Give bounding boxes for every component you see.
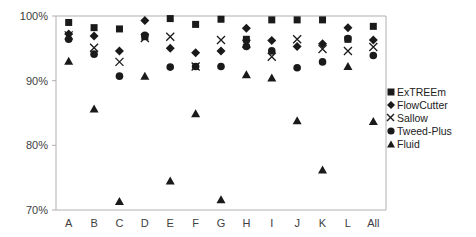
series-fluid: Fluid A: 93%Fluid B: 85.6%Fluid C: 71.3%…	[64, 57, 378, 205]
x-marker: Sallow C: 92.9%	[115, 58, 123, 66]
x-tick-label: I	[270, 217, 273, 229]
triangle-marker: Fluid L: 92.2%	[343, 62, 352, 70]
x-tick-label: All	[367, 217, 379, 229]
triangle-marker: Fluid D: 90.7%	[140, 72, 149, 80]
circle-marker: Tweed-Plus D: 97%	[141, 32, 149, 40]
y-axis-ticks: 70%80%90%100%	[20, 10, 56, 216]
x-tick-label: J	[294, 217, 300, 229]
diamond-marker: FlowCutter B: 96.9%	[90, 32, 99, 41]
triangle-marker: Fluid F: 84.9%	[191, 109, 200, 117]
square-marker: ExTREEm F: 98.7%	[192, 21, 199, 28]
circle-marker: Tweed-Plus L: 96.5%	[344, 35, 352, 43]
series-tweed-plus: Tweed-Plus A: 96.4%Tweed-Plus B: 94.1%Tw…	[65, 32, 377, 80]
legend-label: Sallow	[397, 112, 428, 124]
triangle-marker: Fluid All: 83.7%	[369, 117, 378, 125]
triangle-marker: Fluid I: 90.4%	[267, 74, 276, 82]
circle-marker: Tweed-Plus F: 92.2%	[192, 63, 200, 71]
square-marker: ExTREEm A: 99%	[65, 19, 72, 26]
diamond-marker: FlowCutter C: 94.6%	[115, 46, 124, 55]
legend-label: Fluid	[397, 138, 420, 150]
axes	[56, 16, 386, 210]
circle-marker: Tweed-Plus H: 95.3%	[243, 43, 251, 51]
square-marker: ExTREEm B: 98.2%	[91, 24, 98, 31]
y-tick-label: 70%	[26, 204, 48, 216]
legend: ExTREEm FlowCutter Sallow Tweed-Plus Flu…	[386, 85, 476, 150]
diamond-marker: FlowCutter D: 99.3%	[140, 16, 149, 25]
legend-item-sallow: Sallow	[386, 111, 476, 124]
diamond-marker: FlowCutter I: 96.2%	[267, 36, 276, 45]
x-tick-label: K	[319, 217, 327, 229]
triangle-marker: Fluid B: 85.6%	[90, 105, 99, 113]
triangle-marker: Fluid C: 71.3%	[115, 197, 124, 205]
square-icon	[386, 87, 395, 97]
circle-marker: Tweed-Plus J: 92%	[293, 64, 301, 72]
y-tick-label: 80%	[26, 139, 48, 151]
x-marker: Sallow G: 96.3%	[217, 36, 225, 44]
diamond-marker: FlowCutter K: 95.7%	[318, 39, 327, 48]
data-points: ExTREEm A: 99%ExTREEm B: 98.2%ExTREEm C:…	[64, 15, 378, 205]
x-tick-label: F	[192, 217, 199, 229]
circle-marker: Tweed-Plus K: 92.9%	[319, 58, 327, 66]
circle-marker: Tweed-Plus I: 94.6%	[268, 47, 276, 55]
y-tick-label: 100%	[20, 10, 48, 22]
x-tick-label: C	[115, 217, 123, 229]
triangle-marker: Fluid K: 76.2%	[318, 165, 327, 173]
square-marker: ExTREEm I: 99.4%	[268, 16, 275, 23]
square-marker: ExTREEm K: 99.4%	[319, 16, 326, 23]
circle-marker: Tweed-Plus All: 93.9%	[370, 52, 378, 60]
x-tick-label: A	[65, 217, 73, 229]
x-tick-label: H	[242, 217, 250, 229]
x-tick-label: B	[90, 217, 97, 229]
y-tick-label: 90%	[26, 75, 48, 87]
scatter-chart: 70%80%90%100% ABCDEFGHIJKLAll ExTREEm A:…	[0, 0, 476, 237]
circle-marker: Tweed-Plus C: 90.7%	[116, 72, 124, 80]
series-extreem: ExTREEm A: 99%ExTREEm B: 98.2%ExTREEm C:…	[65, 15, 377, 43]
x-icon	[386, 113, 395, 123]
legend-label: Tweed-Plus	[397, 125, 452, 137]
circle-marker: Tweed-Plus G: 92.2%	[217, 63, 225, 71]
triangle-marker: Fluid G: 71.6%	[217, 195, 226, 203]
triangle-marker: Fluid J: 83.8%	[293, 116, 302, 124]
triangle-marker: Fluid E: 74.5%	[166, 176, 175, 184]
legend-item-extreem: ExTREEm	[386, 85, 476, 98]
square-marker: ExTREEm All: 98.4%	[370, 23, 377, 30]
x-marker: Sallow E: 96.8%	[166, 33, 174, 41]
diamond-marker: FlowCutter E: 95%	[166, 44, 175, 53]
legend-item-tweed-plus: Tweed-Plus	[386, 124, 476, 137]
circle-marker: Tweed-Plus B: 94.1%	[90, 50, 98, 58]
triangle-marker: Fluid A: 93%	[64, 57, 73, 65]
x-tick-label: L	[345, 217, 351, 229]
square-marker: ExTREEm E: 99.6%	[167, 15, 174, 22]
x-axis-ticks: ABCDEFGHIJKLAll	[65, 217, 379, 229]
x-marker: Sallow L: 94.6%	[344, 47, 352, 55]
circle-marker: Tweed-Plus E: 92.1%	[166, 63, 174, 71]
legend-label: ExTREEm	[397, 86, 446, 98]
diamond-marker: FlowCutter L: 98.2%	[343, 23, 352, 32]
square-marker: ExTREEm G: 99.5%	[218, 16, 225, 23]
diamond-marker: FlowCutter F: 94.3%	[191, 48, 200, 57]
triangle-icon	[386, 139, 395, 149]
x-tick-label: D	[141, 217, 149, 229]
circle-icon	[386, 126, 395, 136]
diamond-icon	[386, 100, 395, 110]
legend-label: FlowCutter	[397, 99, 448, 111]
x-tick-label: G	[217, 217, 226, 229]
diamond-marker: FlowCutter G: 94.6%	[217, 46, 226, 55]
square-marker: ExTREEm J: 99.4%	[294, 16, 301, 23]
circle-marker: Tweed-Plus A: 96.4%	[65, 35, 73, 43]
diamond-marker: FlowCutter H: 98.1%	[242, 24, 251, 33]
x-tick-label: E	[167, 217, 174, 229]
legend-item-flowcutter: FlowCutter	[386, 98, 476, 111]
square-marker: ExTREEm C: 98%	[116, 25, 123, 32]
legend-item-fluid: Fluid	[386, 137, 476, 150]
triangle-marker: Fluid H: 90.9%	[242, 70, 251, 78]
